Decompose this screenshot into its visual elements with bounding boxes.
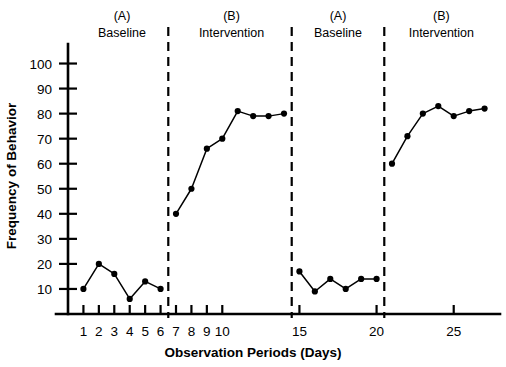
x-tick-label-15: 15	[292, 324, 307, 339]
data-point	[435, 103, 441, 109]
phase-headers: (A)Baseline(B)Intervention(A)Baseline(B)…	[98, 9, 474, 40]
x-axis-ticks: 12345678910152025	[80, 305, 462, 339]
phase-header-name-3: Baseline	[314, 26, 362, 40]
y-tick-label-20: 20	[37, 257, 52, 272]
x-tick-label-6: 6	[157, 324, 165, 339]
data-point	[373, 276, 379, 282]
chart-axes	[56, 44, 500, 314]
data-point	[481, 106, 487, 112]
y-axis-title: Frequency of Behavior	[4, 102, 19, 249]
data-point	[312, 288, 318, 294]
series-line-1	[83, 264, 160, 299]
x-tick-label-2: 2	[95, 324, 103, 339]
series-line-3	[299, 271, 376, 291]
x-tick-label-20: 20	[369, 324, 384, 339]
data-point	[142, 278, 148, 284]
data-series	[80, 103, 487, 302]
x-tick-label-7: 7	[172, 324, 180, 339]
y-tick-label-30: 30	[37, 232, 52, 247]
phase-divider-lines	[168, 27, 384, 318]
y-axis-ticks: 102030405060708090100	[29, 57, 77, 297]
data-point	[265, 113, 271, 119]
data-point	[327, 276, 333, 282]
phase-header-letter-3: (A)	[330, 9, 347, 23]
series-2	[173, 108, 287, 217]
data-point	[389, 161, 395, 167]
y-tick-label-100: 100	[29, 57, 52, 72]
y-tick-label-40: 40	[37, 207, 52, 222]
x-tick-label-8: 8	[188, 324, 196, 339]
y-tick-label-60: 60	[37, 157, 52, 172]
x-tick-label-9: 9	[203, 324, 211, 339]
x-tick-label-3: 3	[111, 324, 119, 339]
data-point	[451, 113, 457, 119]
data-point	[80, 286, 86, 292]
series-line-2	[176, 111, 284, 214]
data-point	[420, 111, 426, 117]
y-tick-label-90: 90	[37, 82, 52, 97]
data-point	[235, 108, 241, 114]
y-tick-label-80: 80	[37, 107, 52, 122]
data-point	[157, 286, 163, 292]
x-tick-label-5: 5	[141, 324, 149, 339]
data-point	[358, 276, 364, 282]
data-point	[173, 211, 179, 217]
data-point	[466, 108, 472, 114]
x-tick-label-25: 25	[446, 324, 461, 339]
y-tick-label-50: 50	[37, 182, 52, 197]
data-point	[281, 111, 287, 117]
chart-canvas: (A)Baseline(B)Intervention(A)Baseline(B)…	[0, 0, 506, 367]
phase-header-name-1: Baseline	[98, 26, 146, 40]
data-point	[96, 261, 102, 267]
y-tick-label-70: 70	[37, 132, 52, 147]
y-tick-label-10: 10	[37, 282, 52, 297]
phase-header-name-4: Intervention	[409, 26, 474, 40]
x-tick-label-4: 4	[126, 324, 134, 339]
data-point	[404, 133, 410, 139]
data-point	[204, 146, 210, 152]
abab-reversal-design-chart: (A)Baseline(B)Intervention(A)Baseline(B)…	[0, 0, 506, 367]
data-point	[219, 136, 225, 142]
phase-header-name-2: Intervention	[199, 26, 264, 40]
series-4	[389, 103, 488, 167]
x-axis-title: Observation Periods (Days)	[164, 345, 341, 360]
series-1	[80, 261, 163, 302]
data-point	[296, 268, 302, 274]
phase-header-letter-4: (B)	[433, 9, 450, 23]
data-point	[188, 186, 194, 192]
data-point	[127, 296, 133, 302]
data-point	[111, 271, 117, 277]
data-point	[343, 286, 349, 292]
series-3	[296, 268, 379, 294]
x-tick-label-10: 10	[215, 324, 230, 339]
phase-header-letter-2: (B)	[223, 9, 240, 23]
phase-header-letter-1: (A)	[114, 9, 131, 23]
x-tick-label-1: 1	[80, 324, 88, 339]
data-point	[250, 113, 256, 119]
